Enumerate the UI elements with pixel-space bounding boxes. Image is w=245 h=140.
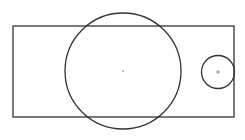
small-circle-center-cross-icon bbox=[216, 70, 220, 74]
diagram-canvas bbox=[0, 0, 245, 140]
outer-rectangle bbox=[13, 26, 234, 117]
large-circle-center-dot bbox=[122, 70, 123, 71]
